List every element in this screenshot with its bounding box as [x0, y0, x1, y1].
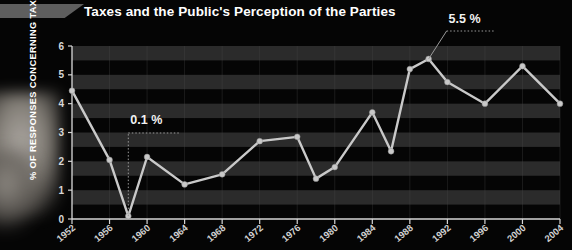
- data-point-marker[interactable]: [520, 63, 526, 69]
- chart-screenshot: Taxes and the Public's Perception of the…: [0, 0, 572, 250]
- x-axis-tick-label: 1980: [317, 222, 340, 244]
- y-axis-tick-label: 0: [58, 214, 64, 225]
- x-axis-tick-label: 1968: [204, 222, 227, 244]
- data-point-marker[interactable]: [369, 109, 375, 115]
- data-point-marker[interactable]: [257, 138, 263, 144]
- data-point-marker[interactable]: [407, 66, 413, 72]
- y-axis-tick-label: 5: [58, 69, 64, 80]
- x-axis-tick-label: 2004: [542, 222, 566, 244]
- line-chart-svg: 0123456195219561960196419681972197619801…: [0, 0, 572, 250]
- y-axis-tick-label: 2: [58, 156, 64, 167]
- data-point-marker[interactable]: [107, 157, 113, 163]
- x-axis-tick-label: 1952: [54, 222, 77, 244]
- plot-band: [72, 190, 560, 204]
- data-point-marker[interactable]: [332, 164, 338, 170]
- x-axis-tick-label: 1976: [279, 222, 302, 244]
- plot-band: [72, 75, 560, 89]
- data-point-marker[interactable]: [313, 176, 319, 182]
- x-axis-tick-label: 1996: [467, 222, 490, 244]
- x-axis-tick-label: 2000: [505, 222, 528, 244]
- plot-band: [72, 133, 560, 147]
- data-point-marker[interactable]: [388, 148, 394, 154]
- chart-plot-area: 0123456195219561960196419681972197619801…: [0, 0, 572, 250]
- y-axis-tick-label: 1: [58, 185, 64, 196]
- x-axis-tick-label: 1964: [167, 222, 191, 244]
- data-point-marker[interactable]: [144, 154, 150, 160]
- y-axis-tick-label: 6: [58, 41, 64, 52]
- data-point-marker[interactable]: [557, 101, 563, 107]
- plot-band: [72, 46, 560, 60]
- x-axis-tick-label: 1956: [92, 222, 115, 244]
- x-axis-tick-label: 1972: [242, 222, 265, 244]
- data-point-marker[interactable]: [219, 171, 225, 177]
- data-point-marker[interactable]: [69, 88, 75, 94]
- y-axis-tick-label: 3: [58, 127, 64, 138]
- annotation-label-low: 0.1 %: [130, 113, 162, 127]
- data-point-marker[interactable]: [294, 134, 300, 140]
- data-point-marker[interactable]: [444, 79, 450, 85]
- x-axis-tick-label: 1988: [392, 222, 415, 244]
- annotation-label-high: 5.5 %: [449, 12, 481, 26]
- y-axis-tick-label: 4: [58, 98, 64, 109]
- data-point-marker[interactable]: [482, 101, 488, 107]
- data-point-marker[interactable]: [182, 182, 188, 188]
- x-axis-tick-label: 1992: [430, 222, 453, 244]
- x-axis-tick-label: 1984: [355, 222, 379, 244]
- x-axis-tick-label: 1960: [129, 222, 152, 244]
